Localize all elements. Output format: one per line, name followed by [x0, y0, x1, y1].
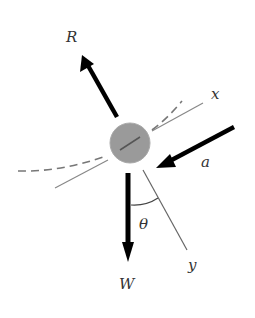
theta-angle-arc: [131, 198, 158, 205]
label-W: W: [119, 275, 136, 293]
label-a: a: [201, 153, 210, 171]
force-R-arrow: [86, 62, 117, 117]
force-W-arrowhead: [122, 242, 134, 262]
free-body-diagram: R x a θ W y: [0, 0, 255, 318]
label-x: x: [211, 85, 220, 103]
trajectory-dashed-path-right: [152, 101, 182, 130]
label-R: R: [65, 28, 77, 46]
y-axis-line: [143, 170, 187, 250]
force-a-arrowhead: [156, 154, 176, 168]
label-y: y: [187, 256, 197, 274]
label-theta: θ: [139, 215, 148, 233]
force-a-arrow: [166, 127, 234, 163]
x-axis-line: [152, 103, 203, 131]
tangent-line-left: [55, 160, 108, 188]
